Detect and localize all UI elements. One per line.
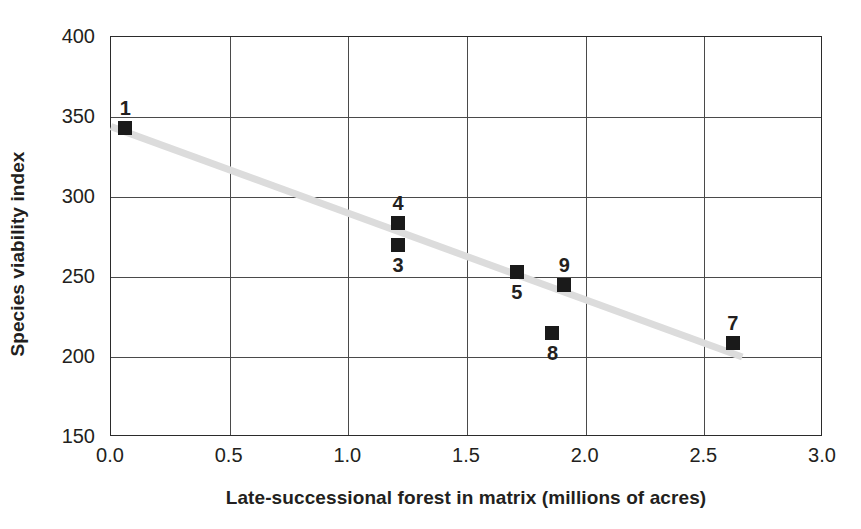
chart-figure: Species viability index 1502002503003504… [0,0,861,529]
x-tick-label: 1.5 [426,445,506,465]
trend-line [111,37,823,437]
y-tick-label: 300 [5,186,95,206]
x-tick-label: 1.0 [307,445,387,465]
data-point-label: 3 [378,255,418,275]
data-point-marker[interactable] [391,238,405,252]
data-point-label: 5 [497,282,537,302]
data-point-label: 4 [378,193,418,213]
x-tick-label: 0.0 [70,445,150,465]
data-point-marker[interactable] [510,265,524,279]
x-tick-label: 0.5 [189,445,269,465]
y-tick-label: 250 [5,266,95,286]
x-tick-label: 2.0 [545,445,625,465]
data-point-label: 1 [105,98,145,118]
x-tick-label: 3.0 [782,445,861,465]
x-tick-label: 2.5 [663,445,743,465]
data-point-label: 9 [544,255,584,275]
data-point-marker[interactable] [726,336,740,350]
y-tick-label: 200 [5,346,95,366]
plot-area: 1435987 [110,36,822,436]
y-tick-label: 350 [5,106,95,126]
x-axis-label: Late-successional forest in matrix (mill… [110,487,822,509]
data-point-marker[interactable] [118,121,132,135]
data-point-marker[interactable] [545,326,559,340]
data-point-label: 7 [713,313,753,333]
y-tick-label: 400 [5,26,95,46]
data-point-label: 8 [532,343,572,363]
data-point-marker[interactable] [557,278,571,292]
data-point-marker[interactable] [391,216,405,230]
trend-line-segment [111,127,742,357]
y-tick-label: 150 [5,426,95,446]
